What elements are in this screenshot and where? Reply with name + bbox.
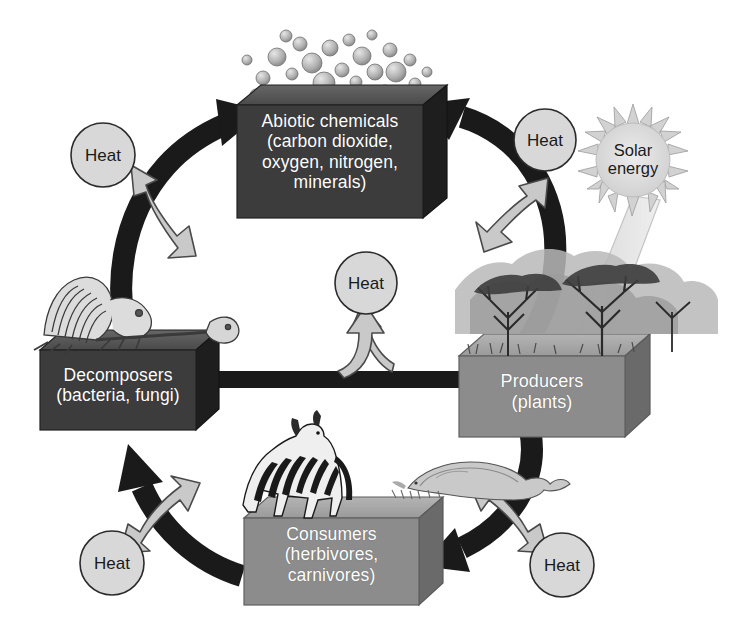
heat-label-top-right: Heat [513, 132, 577, 149]
diagram-canvas: Abiotic chemicals (carbon dioxide, oxyge… [0, 0, 732, 633]
heat-label-bottom-right: Heat [530, 557, 594, 574]
heat-arrow-top-right [476, 178, 548, 252]
diagram-graphics [0, 0, 732, 633]
heat-arrow-center-shaft [338, 305, 384, 378]
solar-line-1: Solar [581, 141, 685, 159]
heat-label-bottom-left: Heat [80, 555, 144, 572]
lion-illustration [392, 462, 570, 500]
solar-energy-label: Solar energy [581, 141, 685, 178]
heat-label-top-left: Heat [71, 147, 135, 164]
box-decomposers[interactable] [40, 330, 219, 430]
box-abiotic[interactable] [237, 85, 447, 218]
flow-producers-to-decomposers [176, 358, 485, 401]
solar-line-2: energy [581, 159, 685, 177]
heat-label-center: Heat [334, 275, 398, 292]
